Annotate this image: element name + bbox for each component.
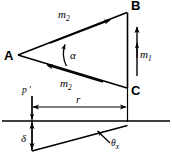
- m2-lower-vector: [47, 65, 103, 82]
- alpha-angle-indicator: [63, 45, 66, 67]
- p-prime-label: p ′: [21, 85, 32, 95]
- m2-upper-arrow-shaft: [50, 20, 110, 43]
- vertex-label-c: C: [131, 83, 141, 98]
- m2-lower-arrow-shaft: [47, 65, 103, 82]
- m2-upper-vector: [50, 20, 110, 43]
- delta-label: δ: [21, 132, 27, 144]
- theta-x-pointer-arrow: [98, 131, 111, 143]
- alpha-label: α: [70, 49, 76, 61]
- m2-lower-label: m2: [60, 77, 72, 92]
- alpha-arc: [63, 45, 66, 67]
- vector-diagram: A B C m2 m2 α m1 p ′: [0, 0, 172, 159]
- r-label: r: [76, 93, 81, 105]
- m1-label: m1: [140, 48, 152, 63]
- theta-x-indicator: [98, 131, 111, 143]
- m2-upper-label: m2: [58, 8, 70, 23]
- vertex-label-a: A: [4, 48, 14, 63]
- figure-container: A B C m2 m2 α m1 p ′: [0, 0, 172, 159]
- vertex-label-b: B: [131, 0, 140, 13]
- theta-x-label: θx: [111, 138, 120, 151]
